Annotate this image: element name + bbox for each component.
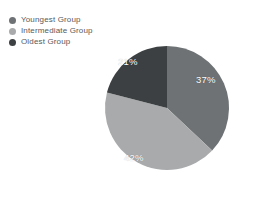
pie-chart-figure: 37% 42% 21% Youngest Group Intermediate … (0, 0, 270, 203)
legend-swatch-icon-intermediate (9, 28, 16, 35)
chart-legend: Youngest Group Intermediate Group Oldest… (9, 15, 129, 48)
legend-label-oldest: Oldest Group (21, 37, 70, 47)
legend-item-intermediate[interactable]: Intermediate Group (9, 26, 129, 37)
slice-label-youngest: 37% (196, 74, 216, 85)
legend-label-youngest: Youngest Group (21, 15, 81, 25)
legend-label-intermediate: Intermediate Group (21, 26, 93, 36)
slice-label-intermediate: 42% (124, 152, 144, 163)
legend-swatch-icon-oldest (9, 39, 16, 46)
slice-label-oldest: 21% (118, 56, 138, 67)
legend-item-youngest[interactable]: Youngest Group (9, 15, 129, 26)
legend-item-oldest[interactable]: Oldest Group (9, 37, 129, 48)
legend-swatch-icon-youngest (9, 17, 16, 24)
